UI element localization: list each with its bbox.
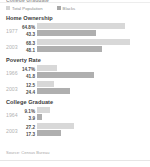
bar-blacks xyxy=(37,72,94,78)
bar-total-population xyxy=(37,123,74,129)
section-title: Poverty Rate xyxy=(6,57,144,64)
bar-blacks xyxy=(37,130,61,136)
bar-blacks xyxy=(37,88,70,94)
legend-item-total-population: Total Population xyxy=(6,6,43,11)
value-total-population: 27.2 xyxy=(21,124,35,131)
group-values: 27.2 17.3 xyxy=(21,124,37,138)
legend-item-blacks: Blacks xyxy=(57,6,76,11)
bar-pair xyxy=(37,123,144,138)
chart-section-college-graduate: College Graduate 1964 9.1% 3.9 2003 27.2… xyxy=(6,99,144,138)
group-values: 68.3 48.1 xyxy=(21,40,37,54)
group-year-label: 2003 xyxy=(6,44,21,50)
value-blacks: 17.3 xyxy=(21,131,35,138)
bar-blacks xyxy=(37,114,42,120)
bar-blacks xyxy=(37,46,102,52)
bar-pair xyxy=(37,107,144,122)
group-year-label: 1966 xyxy=(6,70,21,76)
group-year-label: 2003 xyxy=(6,86,21,92)
chart-section-poverty-rate: Poverty Rate 1966 14.7% 41.8 2003 12.5 2… xyxy=(6,57,144,96)
value-blacks: 43.3 xyxy=(21,31,35,38)
clipped-header-text: College Graduate xyxy=(6,0,126,2)
infographic-panel: College Graduate Total Population Blacks… xyxy=(0,0,150,167)
bar-total-population xyxy=(37,65,57,71)
legend-swatch-icon-total-population xyxy=(6,6,10,10)
bottom-divider xyxy=(0,160,150,161)
group-values: 14.7% 41.8 xyxy=(21,66,37,80)
group-year-label: 2003 xyxy=(6,128,21,134)
bar-pair xyxy=(37,39,144,54)
value-total-population: 14.7% xyxy=(21,66,35,73)
bar-total-population xyxy=(37,23,125,29)
legend-label-blacks: Blacks xyxy=(63,6,76,11)
section-title: Home Ownership xyxy=(6,15,144,22)
value-total-population: 12.5 xyxy=(21,82,35,89)
bar-group: 1964 9.1% 3.9 xyxy=(6,107,144,122)
chart-section-home-ownership: Home Ownership 1977 64.8% 43.3 2003 68.3… xyxy=(6,15,144,54)
group-year-label: 1964 xyxy=(6,112,21,118)
bar-total-population xyxy=(37,81,54,87)
value-total-population: 64.8% xyxy=(21,24,35,31)
bar-group: 2003 12.5 24.4 xyxy=(6,81,144,96)
value-total-population: 68.3 xyxy=(21,40,35,47)
group-year-label: 1977 xyxy=(6,28,21,34)
value-blacks: 41.8 xyxy=(21,73,35,80)
group-values: 9.1% 3.9 xyxy=(21,108,37,122)
top-divider xyxy=(0,2,150,3)
section-title: College Graduate xyxy=(6,99,144,106)
source-note: Source: Census Bureau xyxy=(6,150,50,155)
group-values: 12.5 24.4 xyxy=(21,82,37,96)
value-total-population: 9.1% xyxy=(21,108,35,115)
bar-group: 2003 27.2 17.3 xyxy=(6,123,144,138)
bar-group: 2003 68.3 48.1 xyxy=(6,39,144,54)
legend-label-total-population: Total Population xyxy=(12,6,43,11)
value-blacks: 24.4 xyxy=(21,89,35,96)
value-blacks: 48.1 xyxy=(21,47,35,54)
group-values: 64.8% 43.3 xyxy=(21,24,37,38)
bar-group: 1977 64.8% 43.3 xyxy=(6,23,144,38)
bar-total-population xyxy=(37,39,130,45)
bar-pair xyxy=(37,81,144,96)
bar-pair xyxy=(37,23,144,38)
bar-group: 1966 14.7% 41.8 xyxy=(6,65,144,80)
bar-pair xyxy=(37,65,144,80)
value-blacks: 3.9 xyxy=(21,115,35,122)
bar-total-population xyxy=(37,107,50,113)
legend-swatch-icon-blacks xyxy=(57,6,61,10)
bar-blacks xyxy=(37,30,96,36)
